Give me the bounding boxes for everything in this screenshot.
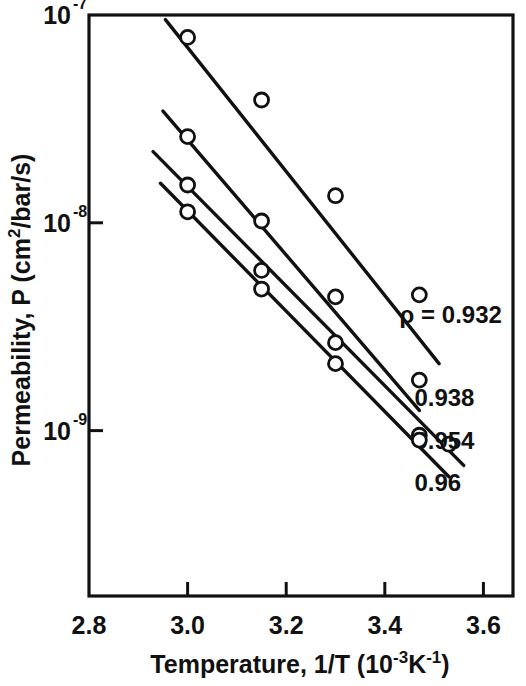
y-tick-label-exponent: -8 — [73, 203, 87, 220]
data-point — [329, 290, 343, 304]
data-point — [329, 357, 343, 371]
series-line — [165, 20, 439, 364]
y-tick-label: 10 — [43, 417, 71, 445]
y-axis-ticks: 10-710-810-9 — [43, 0, 103, 445]
data-point — [329, 336, 343, 350]
y-tick-label-exponent: -7 — [73, 0, 87, 12]
data-point — [181, 130, 195, 144]
series-1: 0.938 — [163, 111, 475, 411]
data-point — [255, 214, 269, 228]
y-tick-label: 10 — [43, 1, 71, 29]
chart-figure: 2.83.03.23.43.610-710-810-9ρ = 0.9320.93… — [0, 0, 526, 686]
data-point — [329, 189, 343, 203]
series-line — [160, 183, 448, 476]
x-tick-label: 3.2 — [269, 611, 304, 639]
series-label: 0.96 — [414, 469, 461, 496]
series-label: ρ = 0.932 — [400, 301, 502, 328]
data-point — [412, 288, 426, 302]
data-point — [255, 93, 269, 107]
x-tick-label: 3.4 — [367, 611, 402, 639]
series-label: 0.938 — [414, 384, 474, 411]
data-point — [412, 433, 426, 447]
x-axis-title: Temperature, 1/T (10-3K-1) — [150, 648, 449, 678]
y-tick-label-exponent: -9 — [73, 411, 87, 428]
x-tick-label: 3.6 — [466, 611, 501, 639]
data-point — [181, 205, 195, 219]
data-point — [255, 282, 269, 296]
chart-svg: 2.83.03.23.43.610-710-810-9ρ = 0.9320.93… — [0, 0, 526, 686]
y-tick-label: 10 — [43, 209, 71, 237]
data-point — [181, 30, 195, 44]
data-point — [255, 263, 269, 277]
x-tick-label: 3.0 — [170, 611, 205, 639]
x-axis-ticks: 2.83.03.23.43.6 — [72, 582, 501, 639]
x-tick-label: 2.8 — [72, 611, 107, 639]
y-axis-title: Permeability, P (cm2/bar/s) — [5, 154, 35, 467]
series-line — [163, 111, 419, 410]
data-point — [181, 178, 195, 192]
